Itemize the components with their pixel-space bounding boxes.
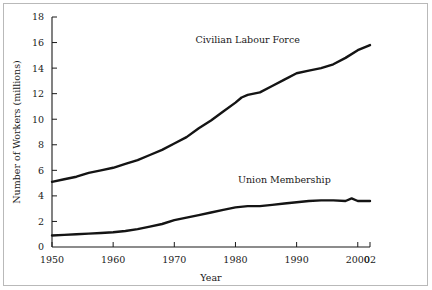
y-axis-title: Number of Workers (millions) bbox=[11, 60, 22, 203]
x-tick-label: 1950 bbox=[40, 254, 64, 265]
y-tick-label: 16 bbox=[32, 37, 44, 48]
y-tick-label: 6 bbox=[38, 165, 44, 176]
y-tick-label: 14 bbox=[32, 63, 44, 74]
x-axis-title: Year bbox=[199, 272, 222, 283]
chart-figure: 0246810121416181950196019701980199020000… bbox=[0, 0, 432, 290]
series-line-0 bbox=[52, 45, 370, 182]
x-tick-label: 1990 bbox=[285, 254, 309, 265]
x-tick-label: 1960 bbox=[101, 254, 125, 265]
series-line-1 bbox=[52, 198, 370, 235]
y-tick-label: 4 bbox=[38, 190, 44, 201]
series-label-0: Civilian Labour Force bbox=[196, 34, 301, 45]
x-tick-label: 1970 bbox=[162, 254, 186, 265]
series-label-1: Union Membership bbox=[238, 174, 331, 185]
x-tick-label: 1980 bbox=[223, 254, 247, 265]
y-tick-label: 10 bbox=[32, 114, 44, 125]
y-tick-label: 8 bbox=[38, 139, 44, 150]
plot-area-container: 0246810121416181950196019701980199020000… bbox=[0, 0, 432, 290]
y-tick-label: 18 bbox=[32, 11, 44, 22]
x-tick-label: 02 bbox=[364, 254, 376, 265]
y-tick-label: 0 bbox=[38, 241, 44, 252]
line-chart: 0246810121416181950196019701980199020000… bbox=[0, 0, 432, 290]
y-tick-label: 12 bbox=[32, 88, 44, 99]
y-tick-label: 2 bbox=[38, 216, 44, 227]
